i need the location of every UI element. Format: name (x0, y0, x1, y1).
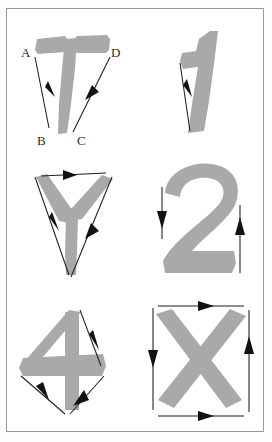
arrow-c-to-d (73, 57, 110, 132)
diagram-cell-x (136, 292, 265, 433)
glyph-two-strokes (163, 163, 238, 273)
arrow-right-up (244, 310, 254, 412)
diagram-cell-t: A D B C (7, 9, 136, 151)
glyph-four-strokes (19, 310, 106, 410)
label-c: C (77, 133, 86, 148)
arrow-left-down (148, 308, 158, 410)
arrow-left-down-right (21, 376, 65, 414)
arrow-bottom-right (158, 411, 244, 421)
arrow-top-left (41, 170, 106, 180)
label-b: B (37, 133, 46, 148)
arrow-left-down (157, 187, 167, 239)
diagram-cell-one (136, 9, 265, 151)
stroke-diagram-grid: A D B C (7, 9, 263, 431)
arrow-a-to-b (35, 57, 55, 128)
diagram-cell-y (7, 151, 136, 292)
label-a: A (21, 45, 31, 60)
glyph-x-strokes (156, 309, 246, 408)
label-d: D (111, 45, 120, 60)
diagram-cell-four (7, 292, 136, 433)
arrow-right-up (235, 205, 245, 273)
diagram-cell-two (136, 151, 265, 292)
glyph-y-strokes (36, 174, 113, 275)
figure-frame: A D B C (6, 8, 264, 432)
